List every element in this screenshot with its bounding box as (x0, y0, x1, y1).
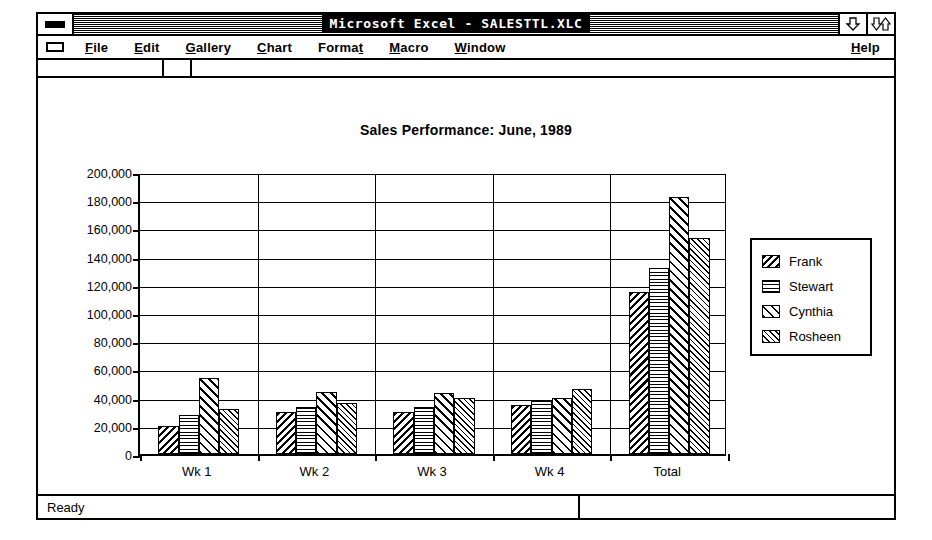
maximize-double-arrow-icon (871, 17, 891, 31)
y-axis-tick-label: 140,000 (87, 252, 132, 266)
title-bar-fill: Microsoft Excel - SALESTTL.XLC (74, 14, 838, 34)
chart-legend[interactable]: FrankStewartCynthiaRosheen (750, 238, 872, 356)
system-menu-button[interactable] (38, 14, 74, 34)
legend-entry-cynthia[interactable]: Cynthia (762, 299, 870, 324)
legend-swatch-cynthia (762, 305, 780, 318)
formula-bar-strip (38, 60, 894, 78)
window-controls (838, 14, 894, 34)
bar-cynthia-total[interactable] (669, 197, 689, 454)
menu-item-gallery[interactable]: Gallery (173, 40, 245, 55)
x-axis-tick-label: Wk 1 (182, 464, 212, 479)
menu-item-window[interactable]: Window (442, 40, 519, 55)
bar-stewart-wk-1[interactable] (179, 415, 199, 454)
y-axis-tick (133, 202, 140, 204)
status-message-pane: Ready (38, 496, 580, 518)
menu-label-edit: dit (143, 40, 159, 55)
minimize-down-arrow-icon (845, 17, 861, 31)
y-axis-tick (133, 287, 140, 289)
y-axis-tick-label: 120,000 (87, 280, 132, 294)
maximize-button[interactable] (866, 14, 894, 34)
bar-rosheen-wk-2[interactable] (337, 403, 357, 454)
menu-bar: File Edit Gallery Chart Format Macro Win… (38, 36, 894, 60)
document-system-menu-icon (46, 42, 64, 52)
status-message: Ready (38, 500, 85, 515)
menu-item-help[interactable]: Help (838, 40, 894, 55)
bar-frank-wk-2[interactable] (276, 412, 296, 454)
bar-frank-wk-3[interactable] (393, 412, 413, 454)
legend-label-rosheen: Rosheen (789, 329, 841, 344)
legend-label-stewart: Stewart (789, 279, 833, 294)
menu-item-edit[interactable]: Edit (121, 40, 172, 55)
window-title: Microsoft Excel - SALESTTL.XLC (322, 15, 591, 33)
menu-label-format-a: Forma (318, 40, 359, 55)
menu-item-chart[interactable]: Chart (244, 40, 305, 55)
menu-accel-chart: C (257, 40, 267, 55)
menu-item-file[interactable]: File (72, 40, 121, 55)
bar-stewart-total[interactable] (649, 268, 669, 454)
document-system-menu-button[interactable] (38, 42, 72, 52)
legend-swatch-rosheen (762, 330, 780, 343)
y-axis-tick-label: 60,000 (94, 364, 132, 378)
excel-window-screenshot: Microsoft Excel - SALESTTL.XLC (0, 0, 932, 540)
y-axis-tick (133, 174, 140, 176)
bar-frank-total[interactable] (629, 292, 649, 454)
category-separator-line (610, 174, 611, 454)
bar-cynthia-wk-3[interactable] (434, 393, 454, 454)
bar-cynthia-wk-1[interactable] (199, 378, 219, 454)
menu-item-format[interactable]: Format (305, 40, 376, 55)
y-axis-tick-label: 200,000 (87, 167, 132, 181)
bar-frank-wk-4[interactable] (511, 405, 531, 454)
bar-stewart-wk-2[interactable] (296, 407, 316, 454)
x-axis-tick (375, 454, 377, 461)
bar-rosheen-wk-3[interactable] (454, 398, 474, 454)
formula-input[interactable] (192, 60, 894, 76)
menu-accel-gallery: G (186, 40, 196, 55)
menu-accel-edit: E (134, 40, 143, 55)
status-secondary-pane (580, 496, 894, 518)
y-axis-tick-label: 0 (125, 449, 132, 463)
x-axis-tick-label: Wk 2 (300, 464, 330, 479)
bar-cynthia-wk-2[interactable] (316, 392, 336, 454)
cell-reference-box[interactable] (38, 60, 164, 76)
x-axis-tick-label: Total (653, 464, 680, 479)
bar-stewart-wk-3[interactable] (414, 407, 434, 454)
legend-entry-frank[interactable]: Frank (762, 249, 870, 274)
bar-rosheen-wk-1[interactable] (219, 409, 239, 454)
application-window: Microsoft Excel - SALESTTL.XLC (36, 12, 896, 520)
menu-label-chart: hart (267, 40, 292, 55)
legend-swatch-frank (762, 255, 780, 268)
x-axis-tick-label: Wk 3 (417, 464, 447, 479)
bar-cynthia-wk-4[interactable] (552, 398, 572, 454)
category-separator-line (258, 174, 259, 454)
y-axis-tick-label: 100,000 (87, 308, 132, 322)
y-axis-labels: 020,00040,00060,00080,000100,000120,0001… (38, 174, 132, 456)
plot-area-right-edge (725, 174, 726, 454)
x-axis-tick (140, 454, 142, 461)
legend-entry-rosheen[interactable]: Rosheen (762, 324, 870, 349)
minimize-button[interactable] (838, 14, 866, 34)
y-axis-tick-label: 180,000 (87, 195, 132, 209)
menu-label-macro: acro (400, 40, 428, 55)
menu-accel-file: F (85, 40, 93, 55)
menu-label-file: ile (93, 40, 108, 55)
bar-frank-wk-1[interactable] (158, 426, 178, 454)
plot-area[interactable] (138, 174, 726, 456)
bar-stewart-wk-4[interactable] (531, 400, 551, 454)
menu-item-macro[interactable]: Macro (376, 40, 441, 55)
menu-label-help: elp (861, 40, 880, 55)
bar-rosheen-wk-4[interactable] (572, 389, 592, 454)
y-axis-tick (133, 400, 140, 402)
legend-label-frank: Frank (789, 254, 822, 269)
y-axis-tick-label: 20,000 (94, 421, 132, 435)
y-axis-tick (133, 456, 140, 458)
legend-entry-stewart[interactable]: Stewart (762, 274, 870, 299)
plot-inner (140, 174, 726, 454)
y-axis-tick (133, 315, 140, 317)
legend-swatch-stewart (762, 280, 780, 293)
title-bar: Microsoft Excel - SALESTTL.XLC (38, 14, 894, 36)
menu-accel-help: H (851, 40, 861, 55)
formula-bar-button-box[interactable] (164, 60, 192, 76)
menu-accel-format: t (359, 40, 364, 55)
bar-rosheen-total[interactable] (689, 238, 709, 454)
menu-label-window: indow (467, 40, 506, 55)
